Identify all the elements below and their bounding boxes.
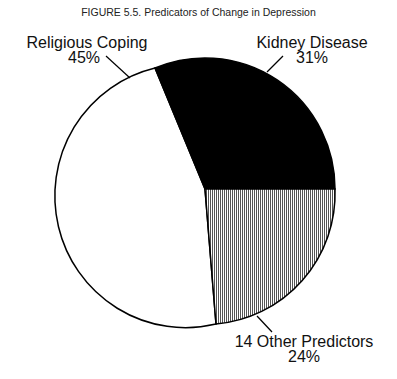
- label-other-pct: 24%: [228, 349, 380, 364]
- label-religious-coping: Religious Coping 45%: [22, 35, 152, 65]
- label-kidney-disease: Kidney Disease 31%: [248, 35, 376, 65]
- leader-other: [257, 316, 272, 332]
- label-other-predictors: 14 Other Predictors 24%: [228, 334, 380, 364]
- slice-other-predictors: [205, 189, 335, 324]
- label-religious-pct: 45%: [22, 50, 152, 65]
- label-kidney-pct: 31%: [248, 50, 376, 65]
